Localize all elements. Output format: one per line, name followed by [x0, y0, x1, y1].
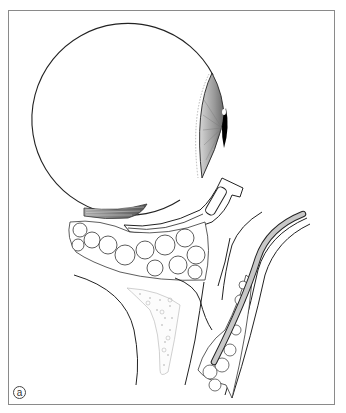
eye-anatomy-illustration: [0, 0, 346, 413]
orbital-floor-bone: [127, 288, 180, 375]
panel-label: a: [13, 386, 26, 399]
eyeball: [32, 23, 213, 215]
tube-channel: [198, 218, 310, 398]
cannula-tube: [214, 214, 303, 362]
